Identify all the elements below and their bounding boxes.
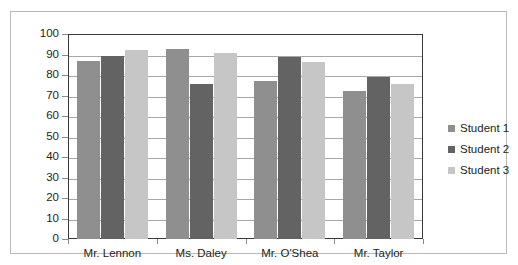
bar[interactable] [125,50,148,239]
x-axis-tick-mark [68,239,69,244]
legend-item[interactable]: Student 3 [448,160,514,181]
bar[interactable] [166,49,189,239]
y-axis-tick-label: 100 [40,28,59,40]
chart-frame: 0102030405060708090100 Mr. LennonMs. Dal… [10,11,507,254]
bar[interactable] [278,57,301,239]
y-axis-tick-marks [61,34,68,239]
bar-group [246,34,335,239]
bar[interactable] [302,62,325,239]
x-axis-tick-mark [246,239,247,244]
x-axis-category-label: Mr. O'Shea [246,245,335,263]
bar-group [157,34,246,239]
chart-legend: Student 1Student 2Student 3 [448,118,514,181]
x-axis-tick-mark [157,239,158,244]
bar[interactable] [101,56,124,239]
bar[interactable] [190,84,213,239]
legend-swatch-icon [448,125,455,132]
y-axis-tick-label: 40 [46,151,59,163]
x-axis-category-label: Mr. Taylor [334,245,423,263]
y-axis-tick-label: 30 [46,172,59,184]
bar-group [334,34,423,239]
y-axis-tick-label: 90 [46,49,59,61]
y-axis-tick-label: 10 [46,213,59,225]
x-axis-tick-mark [423,239,424,244]
y-axis-tick-label: 20 [46,192,59,204]
legend-swatch-icon [448,167,455,174]
x-axis-category-labels: Mr. LennonMs. DaleyMr. O'SheaMr. Taylor [68,245,423,263]
y-axis-tick-labels: 0102030405060708090100 [21,34,59,239]
bar[interactable] [391,84,414,239]
x-axis-category-label: Mr. Lennon [68,245,157,263]
legend-item[interactable]: Student 2 [448,139,514,160]
bar[interactable] [254,81,277,239]
legend-label: Student 2 [460,144,509,156]
x-axis-category-label: Ms. Daley [157,245,246,263]
legend-label: Student 3 [460,165,509,177]
y-axis-tick-label: 70 [46,90,59,102]
bar[interactable] [214,53,237,239]
x-axis-tick-mark [334,239,335,244]
bar[interactable] [77,61,100,239]
bar[interactable] [367,77,390,239]
y-axis-tick-label: 80 [46,69,59,81]
legend-label: Student 1 [460,123,509,135]
y-axis-tick-label: 0 [53,233,59,245]
bar[interactable] [343,91,366,239]
legend-item[interactable]: Student 1 [448,118,514,139]
legend-swatch-icon [448,146,455,153]
bar-group [68,34,157,239]
bar-series-layer [68,34,423,239]
y-axis-tick-label: 50 [46,131,59,143]
y-axis-tick-label: 60 [46,110,59,122]
